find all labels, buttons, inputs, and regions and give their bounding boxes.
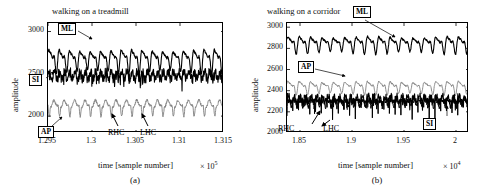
panel-a-plot-area[interactable] (47, 22, 223, 132)
panel-b-ytick-2600: 2600 (258, 64, 283, 73)
panel-a-x-exponent: × 105 (200, 160, 218, 171)
panel-b-ytick-2200: 2200 (258, 106, 283, 115)
panel-b-caption: (b) (337, 175, 417, 185)
panel-a-label-rhc: RHC (108, 128, 124, 137)
panel-a-xlabel: time [sample number] (73, 160, 198, 170)
panel-a-ytick-2000: 2000 (19, 110, 44, 119)
panel-b-label-lhc: LHC (323, 124, 339, 133)
panel-a-xtick-1.3: 1.3 (75, 136, 107, 145)
panel-b-xtick-1.9: 1.9 (335, 136, 367, 145)
panel-b-ytick-3000: 3000 (258, 21, 283, 30)
panel-b-xtick-1.95: 1.95 (387, 136, 419, 145)
panel-b-x-exponent: × 104 (443, 160, 461, 171)
panel-a-ylabel: amplitude (10, 78, 20, 112)
panel-b-plot-area[interactable] (286, 22, 468, 132)
panel-a-ytick-3000: 3000 (19, 25, 44, 34)
panel-b-label-rhc: RHC (278, 124, 294, 133)
panel-b-xtick-1.85: 1.85 (283, 136, 315, 145)
panel-a-caption: (a) (95, 175, 175, 185)
panel-a-title: walking on a treadmill (52, 6, 129, 16)
panel-a-xtick-1.31: 1.31 (163, 136, 195, 145)
panel-b-traces (287, 23, 468, 132)
panel-b-title: walking on a corridor (267, 6, 340, 16)
panel-a-label-si: SI (29, 74, 42, 86)
panel-a-label-ap: AP (38, 126, 54, 138)
panel-a-xtick-1.315: 1.315 (207, 136, 239, 145)
trace-si (48, 68, 223, 91)
figure-gait-signals: walking on a treadmill amplitude time [s… (0, 0, 490, 190)
panel-a-xtick-1.305: 1.305 (119, 136, 151, 145)
panel-a-label-ml: ML (58, 23, 76, 35)
trace-ap (48, 99, 223, 117)
panel-b-label-ml: ML (353, 6, 371, 18)
panel-b-xlabel: time [sample number] (313, 160, 438, 170)
panel-a-traces (48, 23, 223, 132)
panel-b-label-ap: AP (298, 61, 314, 73)
panel-a-label-lhc: LHC (140, 128, 156, 137)
trace-ml (287, 36, 468, 55)
panel-b-ytick-2400: 2400 (258, 85, 283, 94)
panel-b-xtick-2: 2 (439, 136, 471, 145)
panel-b-ytick-2800: 2800 (258, 42, 283, 51)
panel-b-label-si: SI (423, 118, 436, 130)
trace-ap (287, 81, 468, 96)
